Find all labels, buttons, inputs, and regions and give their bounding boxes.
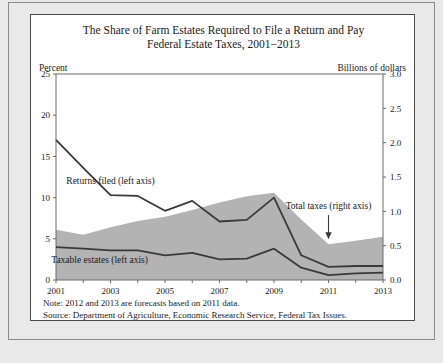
right-axis-tick-label: 2.0 (390, 138, 402, 148)
right-axis-tick-label: 0.0 (390, 275, 402, 285)
series-label: Returns filed (left axis) (66, 176, 154, 187)
series-label: Total taxes (right axis) (286, 201, 372, 212)
left-axis-tick-label: 25 (41, 69, 51, 79)
left-axis-tick-label: 15 (41, 152, 51, 162)
x-axis-tick-label: 2001 (47, 286, 65, 296)
figure-note: Note: 2012 and 2013 are forecasts based … (43, 298, 240, 308)
series-label: Taxable estates (left axis) (51, 255, 148, 266)
right-axis-tick-label: 1.0 (390, 207, 402, 217)
figure-source: Source: Department of Agriculture, Econo… (43, 310, 347, 320)
right-axis-tick-label: 0.5 (390, 241, 402, 251)
chart-svg: 05101520250.00.51.01.52.02.53.0200120032… (31, 15, 416, 322)
annotation-arrow-head (325, 232, 331, 239)
right-axis-tick-label: 2.5 (390, 104, 402, 114)
left-axis-tick-label: 10 (41, 193, 51, 203)
plot-area: 05101520250.00.51.01.52.02.53.0200120032… (31, 15, 416, 322)
x-axis-tick-label: 2011 (320, 286, 338, 296)
x-axis-tick-label: 2013 (374, 286, 393, 296)
x-axis-tick-label: 2007 (211, 286, 230, 296)
figure-card: The Share of Farm Estates Required to Fi… (30, 14, 415, 321)
right-axis-tick-label: 3.0 (390, 69, 402, 79)
left-axis-tick-label: 5 (46, 234, 51, 244)
x-axis-tick-label: 2005 (156, 286, 175, 296)
right-axis-tick-label: 1.5 (390, 172, 402, 182)
x-axis-tick-label: 2009 (265, 286, 284, 296)
figure-page: The Share of Farm Estates Required to Fi… (0, 0, 443, 363)
x-axis-tick-label: 2003 (102, 286, 121, 296)
left-axis-tick-label: 0 (46, 275, 51, 285)
left-axis-tick-label: 20 (41, 110, 51, 120)
